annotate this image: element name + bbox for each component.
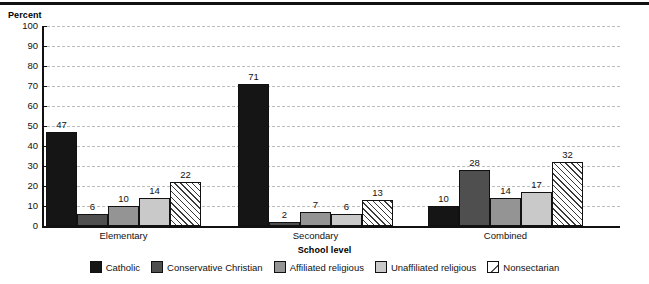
group-label: Secondary xyxy=(256,230,376,241)
y-tick-mark xyxy=(42,66,47,67)
legend-item[interactable]: Unaffiliated religious xyxy=(375,261,476,273)
bar xyxy=(331,214,362,226)
bar xyxy=(362,200,393,226)
bars-layer: 47610142271276131028141732 xyxy=(42,26,620,226)
bar-value-label: 28 xyxy=(453,158,496,168)
y-tick-label: 0 xyxy=(2,221,38,231)
y-tick-labels: 1009080706050403020100 xyxy=(0,26,38,226)
y-tick-label: 90 xyxy=(2,41,38,51)
y-tick-mark xyxy=(42,46,47,47)
legend-label: Catholic xyxy=(106,262,140,273)
bar xyxy=(139,198,170,226)
bar xyxy=(490,198,521,226)
bar xyxy=(521,192,552,226)
bar-value-label: 22 xyxy=(164,170,207,180)
y-axis-title: Percent xyxy=(8,10,42,20)
x-axis-title: School level xyxy=(0,245,649,255)
y-tick-label: 30 xyxy=(2,161,38,171)
bar-chart-figure: Percent 1009080706050403020100 476101422… xyxy=(0,0,649,284)
y-tick-mark xyxy=(42,146,47,147)
bar-value-label: 71 xyxy=(232,72,275,82)
bar xyxy=(459,170,490,226)
bar xyxy=(428,206,459,226)
y-tick-label: 40 xyxy=(2,141,38,151)
chart-legend: CatholicConservative ChristianAffiliated… xyxy=(0,261,649,273)
bar xyxy=(552,162,583,226)
legend-item[interactable]: Conservative Christian xyxy=(151,261,263,273)
legend-swatch-icon xyxy=(90,261,102,273)
group-label: Elementary xyxy=(64,230,184,241)
bar-value-label: 32 xyxy=(546,150,589,160)
legend-label: Conservative Christian xyxy=(167,262,263,273)
y-tick-label: 100 xyxy=(2,21,38,31)
bar-value-label: 47 xyxy=(40,120,83,130)
legend-item[interactable]: Catholic xyxy=(90,261,140,273)
y-tick-mark xyxy=(42,26,47,27)
legend-swatch-icon xyxy=(274,261,286,273)
y-tick-mark xyxy=(42,206,47,207)
legend-swatch-icon xyxy=(375,261,387,273)
y-tick-mark xyxy=(42,226,47,227)
legend-label: Nonsectarian xyxy=(503,262,559,273)
plot-area: 47610142271276131028141732 xyxy=(42,26,620,226)
bar xyxy=(170,182,201,226)
bar xyxy=(77,214,108,226)
y-tick-mark xyxy=(42,86,47,87)
y-tick-label: 70 xyxy=(2,81,38,91)
y-tick-mark xyxy=(42,106,47,107)
legend-label: Affiliated religious xyxy=(290,262,364,273)
bar xyxy=(300,212,331,226)
y-tick-mark xyxy=(42,166,47,167)
top-divider-rule xyxy=(0,2,649,5)
y-tick-label: 20 xyxy=(2,181,38,191)
y-tick-mark xyxy=(42,126,47,127)
group-label: Combined xyxy=(446,230,566,241)
y-tick-label: 60 xyxy=(2,101,38,111)
y-tick-mark xyxy=(42,186,47,187)
bar xyxy=(238,84,269,226)
legend-item[interactable]: Nonsectarian xyxy=(487,261,559,273)
y-tick-label: 80 xyxy=(2,61,38,71)
x-axis-line xyxy=(42,226,620,228)
legend-label: Unaffiliated religious xyxy=(391,262,476,273)
bar-value-label: 13 xyxy=(356,188,399,198)
legend-swatch-icon xyxy=(151,261,163,273)
legend-swatch-icon xyxy=(487,261,499,273)
y-tick-label: 50 xyxy=(2,121,38,131)
y-tick-label: 10 xyxy=(2,201,38,211)
legend-item[interactable]: Affiliated religious xyxy=(274,261,364,273)
bar xyxy=(108,206,139,226)
